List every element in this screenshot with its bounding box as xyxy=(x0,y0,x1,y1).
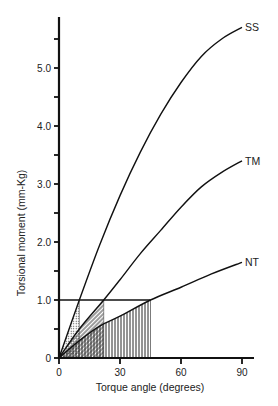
x-tick-label: 30 xyxy=(114,367,126,378)
y-tick-label: 2.0 xyxy=(37,237,51,248)
axes xyxy=(54,17,254,364)
y-tick-label: 1.0 xyxy=(37,295,51,306)
x-tick-label: 60 xyxy=(175,367,187,378)
series-label-tm: TM xyxy=(245,155,260,167)
series-label-ss: SS xyxy=(245,21,259,33)
y-tick-label: 5.0 xyxy=(37,63,51,74)
x-tick-label: 90 xyxy=(236,367,248,378)
x-tick-label: 0 xyxy=(56,367,62,378)
x-axis-title: Torque angle (degrees) xyxy=(96,381,205,393)
shaded-regions xyxy=(59,300,151,358)
torsional-moment-chart: SSTMNT01.02.03.04.05.00306090Torque angl… xyxy=(0,0,278,406)
y-tick-label: 4.0 xyxy=(37,121,51,132)
y-tick-label: 3.0 xyxy=(37,179,51,190)
y-axis-title: Torsional moment (mm-Kg) xyxy=(15,170,27,297)
y-tick-label: 0 xyxy=(45,353,51,364)
series-label-nt: NT xyxy=(245,256,260,268)
